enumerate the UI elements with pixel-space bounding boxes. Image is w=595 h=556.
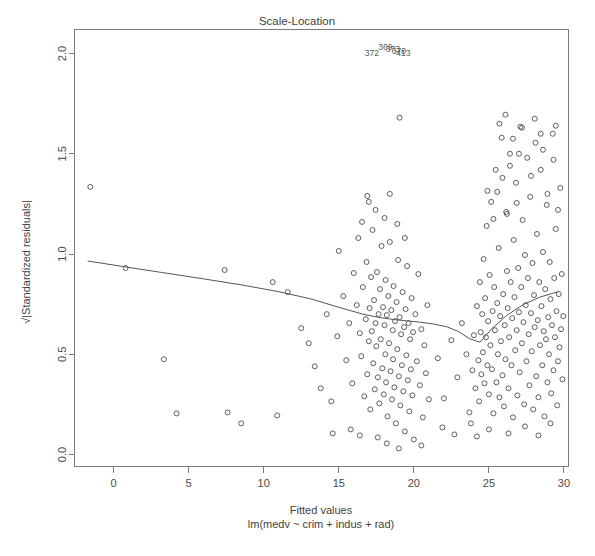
data-points [88,112,566,451]
scatter-point [409,296,414,301]
scatter-point [306,341,311,346]
scatter-point [548,421,553,426]
point-labels: 372369373370413 [365,42,411,58]
scatter-point [473,386,478,391]
scatter-point [402,235,407,240]
scatter-point [375,435,380,440]
scatter-point [480,350,485,355]
scatter-point [390,397,395,402]
scatter-point [372,387,377,392]
plot-canvas: Scale-Location 051015202530 0.00.51.01.5… [0,0,595,556]
scatter-point [403,307,408,312]
scatter-point [388,369,393,374]
scatter-point [548,297,553,302]
scatter-point [483,296,488,301]
x-tick-label: 20 [408,477,420,489]
scatter-point [545,191,550,196]
scatter-point [174,411,179,416]
scatter-point [384,380,389,385]
scatter-point [435,356,440,361]
scatter-point [519,125,524,130]
scatter-point [488,343,493,348]
scatter-point [350,381,355,386]
scatter-point [503,112,508,117]
scatter-point [359,354,364,359]
scatter-point [414,359,419,364]
scatter-point [366,339,371,344]
scatter-point [381,392,386,397]
scatter-point [425,303,430,308]
scatter-point [514,328,519,333]
scatter-point [525,155,530,160]
scatter-point [441,396,446,401]
scatter-point [470,368,475,373]
scatter-point [510,316,515,321]
scatter-point [329,399,334,404]
scatter-point [498,339,503,344]
scatter-point [354,303,359,308]
scatter-point [491,411,496,416]
scatter-point [378,337,383,342]
scatter-point [513,348,518,353]
scatter-point [505,306,510,311]
scatter-point [558,185,563,190]
x-tick-label: 15 [333,477,345,489]
scatter-point [373,207,378,212]
scatter-point [507,151,512,156]
scatter-point [400,290,405,295]
scatter-point [497,395,502,400]
scatter-point [540,250,545,255]
scatter-point [486,319,491,324]
scatter-point [419,443,424,448]
scatter-point [395,347,400,352]
scatter-point [486,427,491,432]
x-axis-sublabel: lm(medv ~ crim + indus + rad) [248,518,394,530]
scatter-point [357,331,362,336]
scatter-point [537,343,542,348]
scatter-point [549,323,554,328]
scatter-point [396,258,401,263]
scatter-point [360,219,365,224]
scatter-point [489,367,494,372]
outlier-point-label: 413 [396,48,410,58]
scatter-point [365,372,370,377]
scatter-point [384,313,389,318]
scatter-point [487,273,492,278]
scatter-point [399,363,404,368]
scale-location-plot: Scale-Location 051015202530 0.00.51.01.5… [0,0,595,556]
scatter-point [538,167,543,172]
scatter-point [368,407,373,412]
scatter-point [555,359,560,364]
scatter-point [380,366,385,371]
scatter-point [474,434,479,439]
scatter-point [506,386,511,391]
scatter-point [299,326,304,331]
scatter-point [555,207,560,212]
scatter-point [381,305,386,310]
scatter-point [516,310,521,315]
scatter-point [560,377,565,382]
plot-title: Scale-Location [259,15,335,27]
scatter-point [517,370,522,375]
scatter-point [510,136,515,141]
scatter-point [481,257,486,262]
scatter-point [512,295,517,300]
scatter-point [369,329,374,334]
scatter-point [379,244,384,249]
scatter-point [521,320,526,325]
scatter-point [502,323,507,328]
scatter-point [392,385,397,390]
scatter-point [493,167,498,172]
scatter-point [161,357,166,362]
scatter-point [528,173,533,178]
scatter-point [391,284,396,289]
scatter-point [239,421,244,426]
x-axis-ticks: 051015202530 [110,467,570,489]
scatter-point [459,321,464,326]
y-axis-ticks: 0.00.51.01.52.0 [57,46,75,462]
scatter-point [399,332,404,337]
scatter-point [501,292,506,297]
scatter-point [551,368,556,373]
scatter-point [522,253,527,258]
scatter-point [525,276,530,281]
